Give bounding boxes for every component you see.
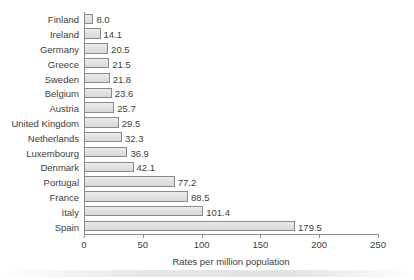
bar-row: Denmark42.1 xyxy=(84,160,378,175)
category-label: Austria xyxy=(49,103,79,114)
x-axis-tick-label: 100 xyxy=(194,239,210,250)
x-axis-title: Rates per million population xyxy=(84,256,378,267)
category-label: Netherlands xyxy=(28,132,79,143)
x-axis-tick-label: 50 xyxy=(138,239,149,250)
category-label: France xyxy=(49,191,79,202)
category-label: Greece xyxy=(48,58,79,69)
plot-area: Finland8.0Ireland14.1Germany20.5Greece21… xyxy=(84,12,378,234)
x-axis-tick-label: 250 xyxy=(370,239,386,250)
bar-row: United Kingdom29.5 xyxy=(84,116,378,131)
category-label: United Kingdom xyxy=(11,117,79,128)
category-label: Ireland xyxy=(50,29,79,40)
bar-value-label: 36.9 xyxy=(127,147,149,158)
bar-row: Portugal77.2 xyxy=(84,175,378,190)
x-axis-tick xyxy=(378,234,379,238)
bar xyxy=(84,147,127,157)
bar-row: Netherlands32.3 xyxy=(84,130,378,145)
bar xyxy=(84,28,101,38)
x-axis-tick xyxy=(260,234,261,238)
x-axis-tick xyxy=(202,234,203,238)
bar xyxy=(84,14,93,24)
category-label: Denmark xyxy=(40,162,79,173)
category-label: Luxembourg xyxy=(26,147,79,158)
category-label: Spain xyxy=(55,221,79,232)
bar xyxy=(84,58,109,68)
bar xyxy=(84,221,295,231)
bar-value-label: 101.4 xyxy=(203,206,230,217)
bar xyxy=(84,117,119,127)
bar xyxy=(84,43,108,53)
x-axis-tick xyxy=(319,234,320,238)
x-axis-line xyxy=(84,234,378,235)
bar-row: Luxembourg36.9 xyxy=(84,145,378,160)
bar-row: Germany20.5 xyxy=(84,42,378,57)
category-label: Finland xyxy=(48,14,79,25)
category-label: Belgium xyxy=(45,88,79,99)
bar-row: France88.5 xyxy=(84,190,378,205)
bar-row: Finland8.0 xyxy=(84,12,378,27)
scan-artifact-streak xyxy=(0,270,414,277)
bar-row: Italy101.4 xyxy=(84,204,378,219)
bar xyxy=(84,102,114,112)
x-axis-tick-label: 0 xyxy=(81,239,86,250)
bar-value-label: 8.0 xyxy=(93,14,109,25)
x-axis-tick-label: 150 xyxy=(252,239,268,250)
bar-row: Sweden21.8 xyxy=(84,71,378,86)
x-axis-tick-label: 200 xyxy=(311,239,327,250)
bar-value-label: 179.5 xyxy=(295,221,322,232)
x-axis-tick xyxy=(143,234,144,238)
bar-value-label: 42.1 xyxy=(134,162,156,173)
category-label: Sweden xyxy=(45,73,79,84)
bar-value-label: 20.5 xyxy=(108,43,130,54)
bar-value-label: 29.5 xyxy=(119,117,141,128)
bar-value-label: 77.2 xyxy=(175,177,197,188)
bar-row: Belgium23.6 xyxy=(84,86,378,101)
bar-row: Austria25.7 xyxy=(84,101,378,116)
x-axis-tick xyxy=(84,234,85,238)
category-label: Germany xyxy=(40,43,79,54)
bar-row: Greece21.5 xyxy=(84,56,378,71)
category-label: Portugal xyxy=(44,177,79,188)
bar-value-label: 88.5 xyxy=(188,191,210,202)
bar xyxy=(84,73,110,83)
bar xyxy=(84,191,188,201)
bar xyxy=(84,176,175,186)
bar xyxy=(84,162,134,172)
bar xyxy=(84,132,122,142)
bar-value-label: 14.1 xyxy=(101,29,123,40)
bar-value-label: 21.5 xyxy=(109,58,131,69)
bar-chart: Finland8.0Ireland14.1Germany20.5Greece21… xyxy=(0,0,414,280)
bar-value-label: 25.7 xyxy=(114,103,136,114)
bar-value-label: 21.8 xyxy=(110,73,132,84)
bar-value-label: 32.3 xyxy=(122,132,144,143)
bar-value-label: 23.6 xyxy=(112,88,134,99)
bar xyxy=(84,206,203,216)
bar xyxy=(84,88,112,98)
category-label: Italy xyxy=(62,206,79,217)
bar-row: Ireland14.1 xyxy=(84,27,378,42)
bar-row: Spain179.5 xyxy=(84,219,378,234)
